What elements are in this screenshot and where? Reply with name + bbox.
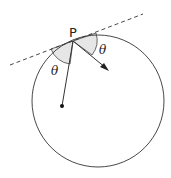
point-label: P [69,25,77,40]
circle [32,35,164,167]
center-dot [60,104,64,108]
diagram-svg: P θ θ [0,0,171,178]
angle-label-left: θ [51,64,59,78]
angle-label-right: θ [99,43,107,57]
diagram: P θ θ [0,0,171,178]
